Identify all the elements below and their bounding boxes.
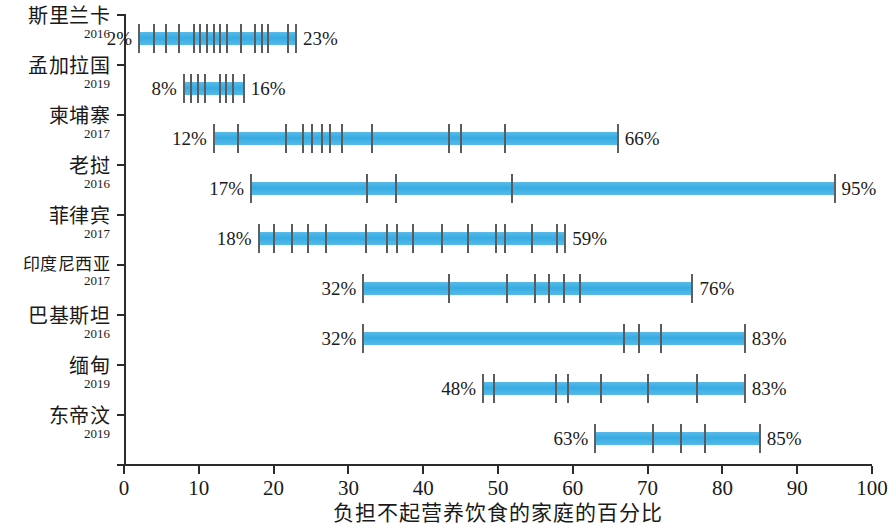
- data-mark: [660, 324, 662, 353]
- bar-low-value: 32%: [322, 324, 362, 353]
- bar-high-value: 16%: [246, 74, 286, 103]
- bar-high-value: 76%: [694, 274, 734, 303]
- range-bar: [483, 382, 745, 395]
- bar-low-value: 17%: [209, 174, 249, 203]
- bar-high-value: 83%: [747, 324, 787, 353]
- x-axis-tick: [123, 466, 125, 474]
- category-label-9: 东帝汶2019: [0, 406, 110, 440]
- category-label-3: 柬埔寨2017: [0, 106, 110, 140]
- data-mark: [531, 224, 533, 253]
- x-axis-tick: [796, 466, 798, 474]
- range-bar: [363, 332, 744, 345]
- bar-end-cap: [617, 124, 619, 153]
- bar-high-value: 83%: [747, 374, 787, 403]
- data-mark: [504, 124, 506, 153]
- data-mark: [225, 74, 227, 103]
- bar-start-cap: [362, 324, 364, 353]
- data-mark: [199, 24, 201, 53]
- category-name: 巴基斯坦: [0, 306, 110, 326]
- x-axis-title: 负担不起营养饮食的家庭的百分比: [0, 496, 891, 524]
- data-mark: [341, 124, 343, 153]
- bar-start-cap: [213, 124, 215, 153]
- range-bar: [595, 432, 760, 445]
- x-axis-tick: [572, 466, 574, 474]
- bar-start-cap: [362, 274, 364, 303]
- data-mark: [193, 24, 195, 53]
- x-axis-tick: [647, 466, 649, 474]
- category-label-5: 菲律宾2017: [0, 206, 110, 240]
- bar-row: 12%66%: [124, 114, 872, 164]
- chart-container: 斯里兰卡2016孟加拉国2019柬埔寨2017老挝2016菲律宾2017印度尼西…: [0, 0, 891, 524]
- data-mark: [213, 24, 215, 53]
- category-name: 菲律宾: [0, 206, 110, 226]
- category-year: 2016: [0, 327, 110, 340]
- bar-start-cap: [250, 174, 252, 203]
- category-name: 东帝汶: [0, 406, 110, 426]
- data-mark: [638, 324, 640, 353]
- category-label-7: 巴基斯坦2016: [0, 306, 110, 340]
- plot-area: 2%23%8%16%12%66%17%95%18%59%32%76%32%83%…: [124, 14, 872, 464]
- data-mark: [504, 224, 506, 253]
- bar-end-cap: [759, 424, 761, 453]
- x-axis-tick: [422, 466, 424, 474]
- data-mark: [261, 24, 263, 53]
- category-name: 孟加拉国: [0, 56, 110, 76]
- bar-start-cap: [594, 424, 596, 453]
- data-mark: [307, 224, 309, 253]
- bar-low-value: 18%: [217, 224, 257, 253]
- bar-low-value: 63%: [553, 424, 593, 453]
- data-mark: [285, 124, 287, 153]
- category-year: 2016: [0, 177, 110, 190]
- bar-end-cap: [834, 174, 836, 203]
- data-mark: [321, 124, 323, 153]
- data-mark: [365, 224, 367, 253]
- data-mark: [237, 124, 239, 153]
- bar-start-cap: [183, 74, 185, 103]
- bar-row: 32%83%: [124, 314, 872, 364]
- bar-low-value: 32%: [322, 274, 362, 303]
- data-mark: [696, 374, 698, 403]
- data-mark: [623, 324, 625, 353]
- data-mark: [567, 374, 569, 403]
- data-mark: [647, 374, 649, 403]
- bar-start-cap: [138, 24, 140, 53]
- bar-high-value: 59%: [567, 224, 607, 253]
- category-name: 斯里兰卡: [0, 6, 110, 26]
- data-mark: [680, 424, 682, 453]
- bar-high-value: 85%: [762, 424, 802, 453]
- bar-row: 8%16%: [124, 64, 872, 114]
- data-mark: [366, 174, 368, 203]
- bar-low-value: 12%: [172, 124, 212, 153]
- data-mark: [548, 274, 550, 303]
- data-mark: [556, 224, 558, 253]
- bar-start-cap: [258, 224, 260, 253]
- category-year: 2016: [0, 27, 110, 40]
- x-axis-tick: [497, 466, 499, 474]
- x-axis-tick: [871, 466, 873, 474]
- range-bar: [139, 32, 296, 45]
- x-axis-line: 0102030405060708090100: [124, 464, 872, 466]
- category-label-4: 老挝2016: [0, 156, 110, 190]
- category-axis-labels: 斯里兰卡2016孟加拉国2019柬埔寨2017老挝2016菲律宾2017印度尼西…: [0, 0, 118, 466]
- bar-high-value: 95%: [837, 174, 877, 203]
- category-year: 2017: [0, 227, 110, 240]
- data-mark: [495, 224, 497, 253]
- category-year: 2017: [0, 274, 110, 287]
- bar-high-value: 23%: [298, 24, 338, 53]
- category-name: 印度尼西亚: [0, 256, 110, 273]
- category-name: 柬埔寨: [0, 106, 110, 126]
- data-mark: [254, 24, 256, 53]
- data-mark: [240, 24, 242, 53]
- data-mark: [460, 124, 462, 153]
- x-axis-title-text: 负担不起营养饮食的家庭的百分比: [333, 496, 663, 524]
- bar-row: 2%23%: [124, 14, 872, 64]
- category-year: 2019: [0, 427, 110, 440]
- category-label-2: 孟加拉国2019: [0, 56, 110, 90]
- data-mark: [219, 24, 221, 53]
- data-mark: [534, 274, 536, 303]
- data-mark: [311, 124, 313, 153]
- data-mark: [165, 24, 167, 53]
- x-axis-tick: [273, 466, 275, 474]
- bar-low-value: 2%: [107, 24, 137, 53]
- bar-row: 32%76%: [124, 264, 872, 314]
